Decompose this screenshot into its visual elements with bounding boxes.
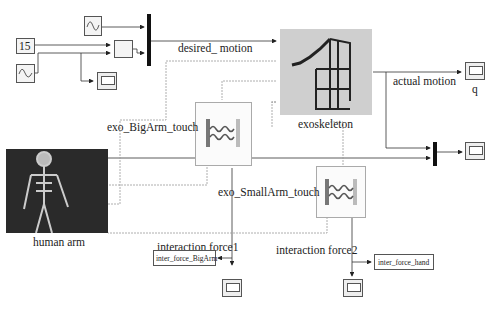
scope-comparison[interactable] — [465, 142, 485, 160]
spring-smallarm-label: exo_SmallArm_touch — [218, 187, 320, 199]
goto-bigarm-label: inter_force_BigArm — [156, 255, 217, 263]
skeleton-icon — [6, 149, 108, 233]
spring-icon — [196, 103, 251, 165]
constant-value: 15 — [19, 41, 31, 53]
signal-label-desired-motion: desired_ motion — [178, 43, 252, 55]
exoskeleton-block[interactable] — [280, 29, 372, 115]
sine-wave-block-bottom[interactable] — [16, 64, 35, 83]
sine-icon — [85, 17, 101, 35]
spring-block-smallarm[interactable] — [316, 166, 366, 218]
scope-force2[interactable] — [343, 279, 363, 297]
scope-desired[interactable] — [97, 72, 117, 90]
goto-block-hand[interactable]: inter_force_hand — [374, 254, 434, 270]
sine-icon — [17, 65, 34, 82]
spring-icon — [317, 167, 365, 217]
mux-top[interactable] — [147, 14, 151, 66]
scope-q[interactable] — [465, 62, 485, 80]
scope-force1[interactable] — [222, 279, 242, 297]
mux-bottom[interactable] — [433, 142, 437, 166]
signal-label-actual-motion: actual motion — [393, 76, 456, 88]
sine-wave-block-top[interactable] — [84, 16, 102, 36]
goto-hand-label: inter_force_hand — [378, 259, 429, 267]
human-arm-label: human arm — [33, 237, 85, 249]
goto-block-bigarm[interactable]: inter_force_BigArm — [153, 250, 216, 266]
exoskeleton-frame-icon — [280, 29, 372, 115]
signal-label-interaction-force2: interaction force2 — [276, 245, 357, 257]
spring-block-bigarm[interactable] — [195, 102, 252, 166]
human-arm-block[interactable] — [6, 149, 108, 233]
constant-block[interactable]: 15 — [16, 38, 35, 54]
spring-bigarm-label: exo_BigArm_touch — [107, 122, 198, 134]
exoskeleton-label: exoskeleton — [298, 119, 353, 131]
scope-q-label: q — [472, 84, 478, 96]
sum-block[interactable] — [114, 40, 133, 58]
